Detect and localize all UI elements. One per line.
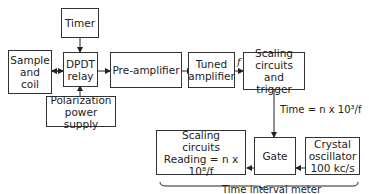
timer-label: Timer [65, 17, 95, 29]
tuned-amplifier-block: Tuned amplifier [188, 52, 235, 88]
preamplifier-block: Pre-amplifier [110, 52, 182, 88]
tuned-label: Tuned [196, 58, 227, 70]
timer-block: Timer [61, 8, 99, 38]
crystal-oscillator-block: Crystal oscillator 100 kc/s [305, 137, 360, 175]
crystal-label: Crystal [314, 138, 351, 150]
time-interval-meter-label: Time interval meter [222, 184, 321, 194]
coil-label: coil [21, 78, 39, 90]
dpdt-relay-block: DPDT relay [63, 52, 98, 87]
power-supply-label: power supply [47, 106, 115, 130]
trigger-label: trigger [256, 83, 291, 95]
gate-label: Gate [262, 150, 287, 162]
polarization-label: Polarization [50, 94, 111, 106]
circuits-and-label: circuits and [244, 59, 304, 83]
dpdt-label: DPDT [66, 58, 95, 70]
preamp-label: Pre-amplifier [112, 64, 179, 76]
frequency-f-label: f [237, 56, 241, 67]
relay-label: relay [67, 70, 93, 82]
polarization-supply-block: Polarization power supply [46, 96, 116, 127]
scaling-reading-block: Scaling circuits Reading = n x 10⁸/f [156, 130, 246, 175]
scaling-label: Scaling [255, 47, 293, 59]
gate-block: Gate [254, 137, 296, 175]
reading-formula: Reading = n x 10⁸/f [157, 153, 245, 177]
frequency-label: 100 kc/s [310, 162, 354, 174]
oscillator-label: oscillator [309, 150, 357, 162]
and-label: and [20, 66, 40, 78]
amplifier-label: amplifier [188, 70, 235, 82]
time-equation-label: Time = n x 10³/f [280, 104, 361, 115]
scaling-trigger-block: Scaling circuits and trigger [243, 52, 305, 90]
sample-label: Sample [10, 54, 49, 66]
sample-coil-block: Sample and coil [8, 50, 52, 94]
scaling-label: Scaling [182, 129, 220, 141]
circuits-label: circuits [182, 141, 220, 153]
